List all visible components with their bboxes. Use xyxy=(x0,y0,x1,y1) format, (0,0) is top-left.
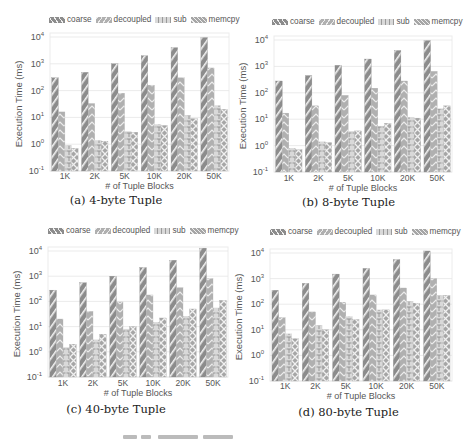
panel-caption: (c) 40-byte Tuple xyxy=(0,402,232,416)
svg-text:Execution Time (ms): Execution Time (ms) xyxy=(233,274,244,361)
legend-label: sub xyxy=(172,226,185,235)
legend-item-memcpy: memcpy xyxy=(412,227,461,236)
chart-panel-b: coarsedecoupledsubmemcpy 10-110010110210… xyxy=(232,0,465,210)
panel-caption: (b) 8-byte Tuple xyxy=(232,195,465,209)
legend-item-coarse: coarse xyxy=(48,226,91,235)
legend-swatch-icon xyxy=(378,19,394,25)
legend-item-decoupled: decoupled xyxy=(317,227,373,236)
legend-label: memcpy xyxy=(430,227,461,236)
svg-text:100: 100 xyxy=(29,346,43,357)
legend-label: decoupled xyxy=(335,227,373,236)
legend-item-memcpy: memcpy xyxy=(414,17,463,26)
svg-text:10K: 10K xyxy=(370,173,385,183)
svg-text:# of Tuple Blocks: # of Tuple Blocks xyxy=(104,388,173,398)
svg-text:103: 103 xyxy=(251,273,265,284)
svg-text:101: 101 xyxy=(29,321,43,332)
svg-text:1K: 1K xyxy=(284,173,295,183)
legend-label: coarse xyxy=(66,226,91,235)
svg-text:2K: 2K xyxy=(313,173,324,183)
svg-text:102: 102 xyxy=(29,295,43,306)
svg-text:2K: 2K xyxy=(88,378,99,388)
svg-text:10-1: 10-1 xyxy=(29,165,45,176)
svg-text:5K: 5K xyxy=(343,173,354,183)
svg-text:104: 104 xyxy=(29,245,43,256)
svg-text:1K: 1K xyxy=(58,378,69,388)
legend-item-decoupled: decoupled xyxy=(95,226,151,235)
legend-item-coarse: coarse xyxy=(270,227,313,236)
svg-text:50K: 50K xyxy=(429,381,444,391)
legend-swatch-icon xyxy=(48,228,64,234)
svg-text:103: 103 xyxy=(29,270,43,281)
legend-swatch-icon xyxy=(191,17,207,23)
svg-text:102: 102 xyxy=(31,85,45,96)
legend-label: sub xyxy=(396,17,409,26)
legend-label: decoupled xyxy=(114,15,152,24)
svg-text:102: 102 xyxy=(251,298,265,309)
legend-swatch-icon xyxy=(95,228,111,234)
panel-caption: (d) 80-byte Tuple xyxy=(232,405,465,419)
svg-text:10-1: 10-1 xyxy=(249,375,265,386)
legend-item-coarse: coarse xyxy=(49,15,92,24)
svg-text:20K: 20K xyxy=(175,378,190,388)
svg-text:1K: 1K xyxy=(60,171,71,181)
svg-text:100: 100 xyxy=(255,140,269,151)
svg-text:Execution Time (ms): Execution Time (ms) xyxy=(237,63,248,150)
panel-caption: (a) 4-byte Tuple xyxy=(0,193,232,207)
legend-label: sub xyxy=(173,15,186,24)
svg-text:50K: 50K xyxy=(207,171,222,181)
svg-text:20K: 20K xyxy=(399,381,414,391)
svg-text:# of Tuple Blocks: # of Tuple Blocks xyxy=(329,183,398,193)
svg-text:103: 103 xyxy=(31,58,45,69)
legend-swatch-icon xyxy=(270,229,286,235)
legend-label: decoupled xyxy=(337,17,375,26)
svg-text:10K: 10K xyxy=(147,171,162,181)
chart-legend: coarsedecoupledsubmemcpy xyxy=(49,15,240,24)
legend-item-sub: sub xyxy=(154,226,185,235)
svg-text:1K: 1K xyxy=(280,381,291,391)
svg-text:20K: 20K xyxy=(177,171,192,181)
legend-swatch-icon xyxy=(414,19,430,25)
chart-legend: coarsedecoupledsubmemcpy xyxy=(48,226,239,235)
legend-swatch-icon xyxy=(190,228,206,234)
bar-chart: 10-1100101102103104Execution Time (ms)1K… xyxy=(232,210,465,410)
svg-text:101: 101 xyxy=(255,113,269,124)
legend-item-sub: sub xyxy=(155,15,186,24)
svg-text:5K: 5K xyxy=(119,171,130,181)
legend-label: decoupled xyxy=(113,226,151,235)
bar-chart: 10-1100101102103104Execution Time (ms)1K… xyxy=(232,0,465,195)
legend-swatch-icon xyxy=(317,229,333,235)
svg-text:Execution Time (ms): Execution Time (ms) xyxy=(13,61,24,148)
legend-swatch-icon xyxy=(49,17,65,23)
svg-text:10K: 10K xyxy=(145,378,160,388)
svg-text:5K: 5K xyxy=(341,381,352,391)
bar-chart: 10-1100101102103104Execution Time (ms)1K… xyxy=(0,210,232,410)
chart-legend: coarsedecoupledsubmemcpy xyxy=(272,17,463,26)
svg-text:100: 100 xyxy=(251,349,265,360)
legend-swatch-icon xyxy=(319,19,335,25)
legend-swatch-icon xyxy=(155,17,171,23)
svg-text:102: 102 xyxy=(255,87,269,98)
legend-swatch-icon xyxy=(96,17,112,23)
legend-swatch-icon xyxy=(376,229,392,235)
legend-label: coarse xyxy=(288,227,313,236)
svg-text:103: 103 xyxy=(255,60,269,71)
svg-text:100: 100 xyxy=(31,138,45,149)
svg-text:10-1: 10-1 xyxy=(27,371,43,382)
svg-text:101: 101 xyxy=(31,111,45,122)
chart-panel-c: coarsedecoupledsubmemcpy 10-110010110210… xyxy=(0,210,232,425)
legend-swatch-icon xyxy=(412,229,428,235)
legend-item-coarse: coarse xyxy=(272,17,315,26)
svg-text:50K: 50K xyxy=(430,173,445,183)
legend-label: sub xyxy=(394,227,407,236)
legend-label: memcpy xyxy=(432,17,463,26)
svg-text:20K: 20K xyxy=(400,173,415,183)
chart-legend: coarsedecoupledsubmemcpy xyxy=(270,227,461,236)
figure-caption-cutoff xyxy=(0,433,465,439)
legend-label: coarse xyxy=(290,17,315,26)
svg-text:Execution Time (ms): Execution Time (ms) xyxy=(11,271,22,358)
svg-text:10K: 10K xyxy=(369,381,384,391)
bar-chart: 10-1100101102103104Execution Time (ms)1K… xyxy=(0,0,232,195)
legend-item-decoupled: decoupled xyxy=(319,17,375,26)
svg-text:50K: 50K xyxy=(205,378,220,388)
svg-text:10-1: 10-1 xyxy=(253,166,269,177)
